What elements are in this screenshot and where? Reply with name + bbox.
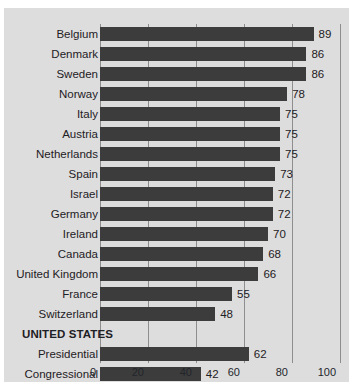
bar-value-label: 78 [292, 84, 305, 104]
bar-value-label: 86 [311, 64, 324, 84]
bar [100, 307, 215, 321]
category-label: Sweden [4, 64, 98, 84]
chart-bar-row: Sweden86 [4, 64, 349, 84]
chart-bar-row: Denmark86 [4, 44, 349, 64]
chart-bar-row: Canada68 [4, 244, 349, 264]
bar-value-label: 73 [280, 164, 293, 184]
category-label: Spain [4, 164, 98, 184]
bar-value-label: 70 [273, 224, 286, 244]
bar-value-label: 72 [278, 204, 291, 224]
chart-bar-row: Switzerland48 [4, 304, 349, 324]
bar-chart-screenshot: Belgium89Denmark86Sweden86Norway78Italy7… [0, 0, 353, 388]
bar-value-label: 72 [278, 184, 291, 204]
bar [100, 127, 280, 141]
category-label: Ireland [4, 224, 98, 244]
x-axis-tick-label-0: 0 [56, 366, 96, 379]
bar-value-label: 66 [263, 264, 276, 284]
chart-bar-row: France55 [4, 284, 349, 304]
bar-value-label: 75 [285, 124, 298, 144]
chart-bar-row: United Kingdom66 [4, 264, 349, 284]
bar [100, 87, 287, 101]
category-label: France [4, 284, 98, 304]
chart-bar-row: Italy75 [4, 104, 349, 124]
bar-value-label: 75 [285, 144, 298, 164]
category-label: Switzerland [4, 304, 98, 324]
category-label: Denmark [4, 44, 98, 64]
chart-panel: Belgium89Denmark86Sweden86Norway78Italy7… [4, 8, 349, 382]
bar [100, 227, 268, 241]
category-label: Presidential [4, 344, 98, 364]
chart-bar-row: Austria75 [4, 124, 349, 144]
bar [100, 207, 273, 221]
chart-plot-area: Belgium89Denmark86Sweden86Norway78Italy7… [4, 8, 349, 382]
bar [100, 287, 232, 301]
category-label: Norway [4, 84, 98, 104]
bar-value-label: 86 [311, 44, 324, 64]
chart-bar-row: Ireland70 [4, 224, 349, 244]
category-label: Netherlands [4, 144, 98, 164]
bar-value-label: 62 [254, 344, 267, 364]
chart-bar-row: Germany72 [4, 204, 349, 224]
category-label: Germany [4, 204, 98, 224]
bar-value-label: 68 [268, 244, 281, 264]
bar [100, 267, 258, 281]
x-axis-tick-label-60: 60 [200, 366, 240, 379]
bar [100, 347, 249, 361]
bar [100, 167, 275, 181]
x-axis-tick-label-100: 100 [296, 366, 336, 379]
chart-bar-row: Belgium89 [4, 24, 349, 44]
category-label: Israel [4, 184, 98, 204]
category-label: Belgium [4, 24, 98, 44]
x-axis-tick-label-80: 80 [248, 366, 288, 379]
bar [100, 67, 306, 81]
category-label: Austria [4, 124, 98, 144]
category-label: UNITED STATES [22, 324, 222, 344]
bar [100, 107, 280, 121]
chart-bar-row: Norway78 [4, 84, 349, 104]
bar [100, 27, 314, 41]
category-label: United Kingdom [4, 264, 98, 284]
bar [100, 47, 306, 61]
bar-value-label: 89 [319, 24, 332, 44]
chart-bar-row: Israel72 [4, 184, 349, 204]
bar-value-label: 48 [220, 304, 233, 324]
chart-group-header-row: UNITED STATES [4, 324, 349, 344]
chart-bar-row: Spain73 [4, 164, 349, 184]
chart-bar-row: Presidential62 [4, 344, 349, 364]
category-label: Italy [4, 104, 98, 124]
x-axis-tick-label-40: 40 [152, 366, 192, 379]
bar-value-label: 75 [285, 104, 298, 124]
bar-value-label: 55 [237, 284, 250, 304]
chart-bar-row: Netherlands75 [4, 144, 349, 164]
bar [100, 187, 273, 201]
bar [100, 147, 280, 161]
x-axis-tick-label-20: 20 [104, 366, 144, 379]
category-label: Canada [4, 244, 98, 264]
bar [100, 247, 263, 261]
